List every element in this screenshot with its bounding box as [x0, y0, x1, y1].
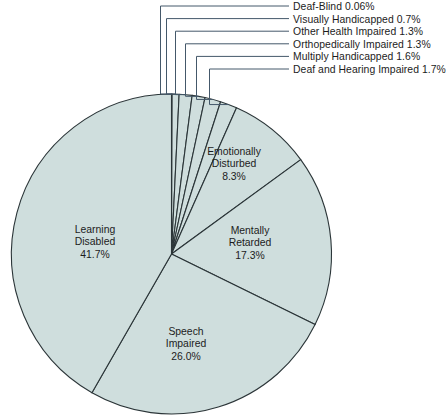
leader-line: [210, 69, 290, 105]
callout-label-visually-handicapped: Visually Handicapped 0.7%: [293, 14, 421, 27]
leader-line: [161, 6, 290, 94]
slice-label-learning-disabled: Learning Disabled 41.7%: [50, 224, 140, 261]
leader-line: [176, 31, 290, 94]
slice-label-value: 41.7%: [50, 249, 140, 261]
slice-label-value: 26.0%: [141, 351, 231, 363]
slice-label-line2: Impaired: [141, 338, 231, 350]
callout-label-multiply-handicapped: Multiply Handicapped 1.6%: [293, 51, 420, 64]
pie-chart-figure: Deaf-Blind 0.06% Visually Handicapped 0.…: [0, 0, 446, 417]
slice-label-line2: Disturbed: [186, 158, 282, 170]
callout-label-deaf-blind: Deaf-Blind 0.06%: [293, 1, 375, 14]
slice-label-line1: Emotionally: [186, 146, 282, 158]
callout-label-other-health-impaired: Other Health Impaired 1.3%: [293, 26, 423, 39]
slice-label-value: 8.3%: [186, 171, 282, 183]
slice-label-line1: Mentally: [205, 225, 295, 237]
slice-label-speech-impaired: Speech Impaired 26.0%: [141, 326, 231, 363]
callout-label-deaf-and-hearing-impaired: Deaf and Hearing Impaired 1.7%: [293, 64, 446, 77]
callout-label-orthopedically-impaired: Orthopedically Impaired 1.3%: [293, 39, 431, 52]
leader-line: [197, 56, 290, 99]
slice-label-value: 17.3%: [205, 250, 295, 262]
slice-label-line1: Learning: [50, 224, 140, 236]
slice-label-mentally-retarded: Mentally Retarded 17.3%: [205, 225, 295, 262]
slice-label-line2: Retarded: [205, 237, 295, 249]
slice-label-line1: Speech: [141, 326, 231, 338]
leader-line: [186, 44, 290, 97]
slice-label-emotionally-disturbed: Emotionally Disturbed 8.3%: [186, 146, 282, 183]
leader-lines-group: [161, 6, 290, 105]
slice-label-line2: Disabled: [50, 236, 140, 248]
